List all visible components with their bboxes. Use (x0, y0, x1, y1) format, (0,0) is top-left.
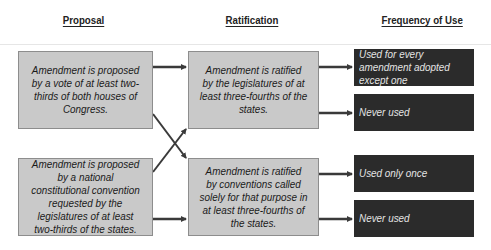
ratification-conventions-box: Amendment is ratified by conventions cal… (188, 158, 319, 236)
frequency-text-1: Used for every amendment adopted except … (359, 48, 458, 87)
frequency-box-1: Used for every amendment adopted except … (354, 49, 474, 86)
ratification-legislatures-text: Amendment is ratified by the legislature… (199, 64, 308, 116)
proposal-convention-text: Amendment is proposed by a national cons… (29, 158, 142, 236)
frequency-box-3: Used only once (354, 155, 474, 192)
frequency-box-4: Never used (354, 200, 474, 237)
frequency-text-2: Never used (359, 106, 410, 119)
ratification-conventions-text: Amendment is ratified by conventions cal… (199, 165, 308, 230)
frequency-box-2: Never used (354, 94, 474, 131)
frequency-text-3: Used only once (359, 167, 427, 180)
proposal-congress-text: Amendment is proposed by a vote of at le… (29, 64, 142, 116)
proposal-congress-box: Amendment is proposed by a vote of at le… (18, 51, 153, 129)
ratification-legislatures-box: Amendment is ratified by the legislature… (188, 51, 319, 129)
frequency-text-4: Never used (359, 212, 410, 225)
proposal-convention-box: Amendment is proposed by a national cons… (18, 158, 153, 236)
